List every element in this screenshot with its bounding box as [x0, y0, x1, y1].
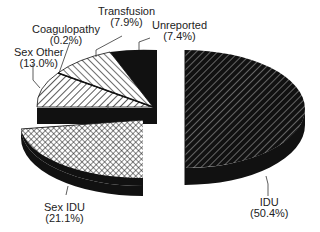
leader-unreported	[139, 38, 150, 50]
label-sex-idu: Sex IDU (21.1%)	[44, 202, 85, 224]
leader-idu	[266, 176, 268, 196]
label-idu-pct: (50.4%)	[250, 208, 289, 219]
label-transfusion: Transfusion (7.9%)	[98, 6, 155, 28]
label-coagulopathy: Coagulopathy (0.2%)	[32, 24, 100, 46]
label-transfusion-pct: (7.9%)	[98, 17, 155, 28]
label-unreported: Unreported (7.4%)	[152, 20, 207, 42]
label-idu: IDU (50.4%)	[250, 197, 289, 219]
label-coagulopathy-pct: (0.2%)	[32, 35, 100, 46]
leader-sex-idu	[66, 186, 68, 195]
label-sex-other: Sex Other (13.0%)	[14, 47, 64, 69]
slice-idu	[185, 50, 305, 185]
label-sex-idu-pct: (21.1%)	[44, 213, 85, 224]
label-unreported-pct: (7.4%)	[152, 31, 207, 42]
slice-sex-idu	[21, 120, 143, 196]
label-sex-other-pct: (13.0%)	[14, 58, 64, 69]
